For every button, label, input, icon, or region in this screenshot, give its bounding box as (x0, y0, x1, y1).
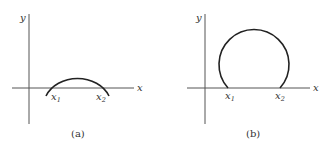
x-axis-label: x (313, 82, 319, 93)
circle-arc-curve (219, 30, 289, 88)
panel-a: y x x1 x2 (a) (12, 12, 143, 139)
x-axis-label: x (137, 82, 143, 93)
caption-b: (b) (246, 128, 260, 139)
figure: y x x1 x2 (a) y x x1 x2 (b) (0, 0, 326, 148)
x1-label: x1 (225, 90, 235, 103)
y-axis-label: y (195, 12, 202, 23)
x2-label: x2 (96, 91, 106, 104)
y-axis-label: y (19, 12, 26, 23)
panel-b: y x x1 x2 (b) (187, 12, 319, 139)
x2-label: x2 (275, 90, 285, 103)
x1-label: x1 (51, 91, 61, 104)
caption-a: (a) (71, 128, 85, 139)
